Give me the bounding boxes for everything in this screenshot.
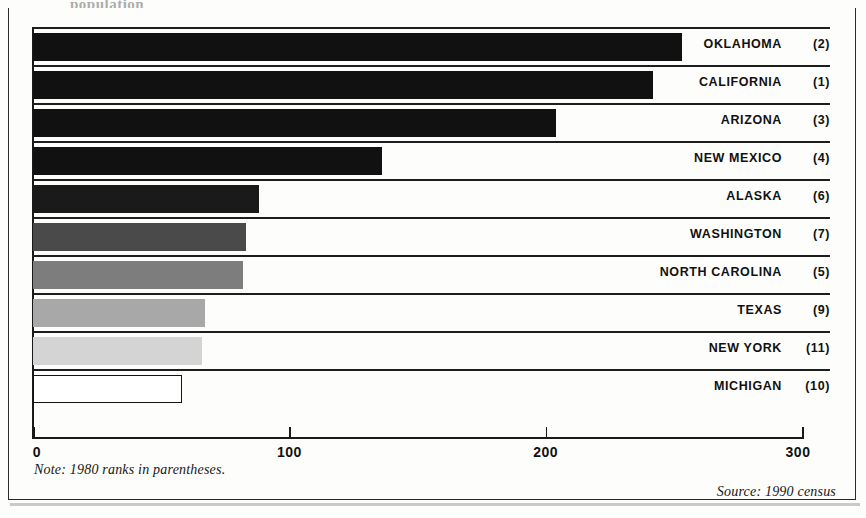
- x-axis-ticks: 0100200300: [0, 427, 866, 467]
- row-separator-line: [33, 103, 830, 105]
- bar-row: NORTH CAROLINA(5): [0, 255, 866, 293]
- bar-row: WASHINGTON(7): [0, 217, 866, 255]
- row-separator-line: [33, 65, 830, 67]
- bar-label-new-mexico: NEW MEXICO(4): [410, 151, 830, 165]
- bar-label-texas: TEXAS(9): [410, 303, 830, 317]
- row-separator-line: [33, 369, 830, 371]
- bar-michigan: [33, 375, 182, 403]
- state-name: NEW MEXICO: [694, 151, 782, 165]
- bar-new-york: [33, 337, 202, 365]
- x-tick-label: 100: [277, 444, 302, 460]
- bar-label-north-carolina: NORTH CAROLINA(5): [410, 265, 830, 279]
- x-tick-mark: [289, 427, 291, 438]
- state-name: MICHIGAN: [714, 379, 782, 393]
- bar-alaska: [33, 185, 259, 213]
- state-name: OKLAHOMA: [704, 37, 782, 51]
- bar-label-new-york: NEW YORK(11): [410, 341, 830, 355]
- bar-row: TEXAS(9): [0, 293, 866, 331]
- row-separator-line: [33, 179, 830, 181]
- state-name: ARIZONA: [721, 113, 782, 127]
- bar-row: NEW MEXICO(4): [0, 141, 866, 179]
- row-separator-line: [33, 293, 830, 295]
- row-separator-line: [33, 27, 830, 29]
- bar-label-alaska: ALASKA(6): [410, 189, 830, 203]
- state-rank-1980: (1): [792, 75, 830, 89]
- state-rank-1980: (2): [792, 37, 830, 51]
- bar-rows: OKLAHOMA(2)CALIFORNIA(1)ARIZONA(3)NEW ME…: [0, 27, 866, 407]
- bar-label-oklahoma: OKLAHOMA(2): [410, 37, 830, 51]
- x-tick-label: 0: [33, 444, 41, 460]
- state-rank-1980: (11): [792, 341, 830, 355]
- state-rank-1980: (9): [792, 303, 830, 317]
- x-tick-label: 300: [786, 444, 811, 460]
- state-name: ALASKA: [726, 189, 782, 203]
- bar-row: CALIFORNIA(1): [0, 65, 866, 103]
- state-name: WASHINGTON: [690, 227, 782, 241]
- state-rank-1980: (6): [792, 189, 830, 203]
- bar-texas: [33, 299, 205, 327]
- bar-label-washington: WASHINGTON(7): [410, 227, 830, 241]
- state-rank-1980: (3): [792, 113, 830, 127]
- bar-row: NEW YORK(11): [0, 331, 866, 369]
- bar-label-michigan: MICHIGAN(10): [410, 379, 830, 393]
- state-rank-1980: (4): [792, 151, 830, 165]
- bar-row: MICHIGAN(10): [0, 369, 866, 407]
- state-name: TEXAS: [737, 303, 782, 317]
- x-tick-mark: [33, 427, 35, 438]
- row-separator-line: [33, 331, 830, 333]
- x-tick-label: 200: [533, 444, 558, 460]
- chart-source: Source: 1990 census: [717, 484, 836, 500]
- bar-new-mexico: [33, 147, 382, 175]
- x-tick-mark: [546, 427, 548, 438]
- bar-label-arizona: ARIZONA(3): [410, 113, 830, 127]
- bar-washington: [33, 223, 246, 251]
- bar-north-carolina: [33, 261, 243, 289]
- state-rank-1980: (10): [792, 379, 830, 393]
- chart-note: Note: 1980 ranks in parentheses.: [34, 462, 225, 478]
- state-rank-1980: (7): [792, 227, 830, 241]
- bar-row: ALASKA(6): [0, 179, 866, 217]
- state-name: CALIFORNIA: [699, 75, 782, 89]
- bar-row: OKLAHOMA(2): [0, 27, 866, 65]
- chart-page: population OKLAHOMA(2)CALIFORNIA(1)ARIZO…: [0, 0, 866, 518]
- bar-row: ARIZONA(3): [0, 103, 866, 141]
- row-separator-line: [33, 217, 830, 219]
- state-name: NEW YORK: [709, 341, 782, 355]
- bar-label-california: CALIFORNIA(1): [410, 75, 830, 89]
- row-separator-line: [33, 255, 830, 257]
- state-name: NORTH CAROLINA: [660, 265, 782, 279]
- x-tick-mark: [802, 427, 804, 438]
- bar-chart: OKLAHOMA(2)CALIFORNIA(1)ARIZONA(3)NEW ME…: [0, 0, 866, 518]
- state-rank-1980: (5): [792, 265, 830, 279]
- row-separator-line: [33, 141, 830, 143]
